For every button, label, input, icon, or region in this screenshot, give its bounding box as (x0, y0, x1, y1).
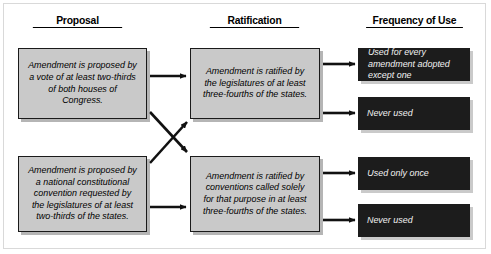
frequency-box-every-amendment: Used for every amendment adopted except … (358, 48, 470, 81)
amendment-process-diagram: Proposal Ratification Frequency of Use A… (0, 0, 491, 254)
proposal-box-congress-text: Amendment is proposed by a vote of at le… (22, 60, 144, 106)
proposal-box-convention: Amendment is proposed by a national cons… (18, 156, 147, 232)
frequency-box-every-amendment-text: Used for every amendment adopted except … (360, 47, 468, 82)
arrow-convention-to-legislatures (150, 122, 187, 163)
ratification-box-legislatures-text: Amendment is ratified by the legislature… (194, 66, 317, 101)
frequency-box-never-used-bottom: Never used (358, 204, 470, 237)
proposal-box-convention-text: Amendment is proposed by a national cons… (22, 165, 144, 223)
ratification-box-legislatures: Amendment is ratified by the legislature… (190, 48, 320, 119)
frequency-box-used-once-text: Used only once (360, 168, 437, 180)
frequency-box-never-used-top-text: Never used (359, 108, 420, 120)
column-header-ratification: Ratification (210, 14, 299, 28)
frequency-box-never-used-top: Never used (358, 97, 470, 130)
arrow-congress-to-conventions (150, 112, 187, 152)
ratification-box-conventions: Amendment is ratified by conventions cal… (190, 156, 320, 232)
proposal-box-congress: Amendment is proposed by a vote of at le… (18, 48, 147, 119)
column-header-frequency-of-use: Frequency of Use (366, 14, 463, 28)
column-header-proposal: Proposal (33, 14, 122, 28)
ratification-box-conventions-text: Amendment is ratified by conventions cal… (194, 171, 317, 217)
frequency-box-never-used-bottom-text: Never used (359, 215, 420, 227)
frequency-box-used-once: Used only once (358, 157, 470, 190)
